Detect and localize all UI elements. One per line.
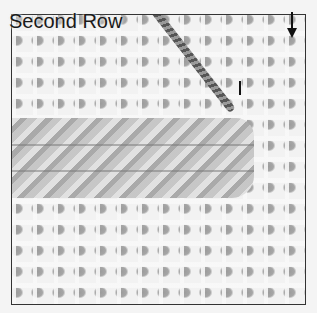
down-arrow-icon [285, 10, 299, 40]
illustration-frame [11, 14, 306, 305]
illustration-title: Second Row [9, 10, 122, 33]
stitch-row-divider [12, 170, 254, 172]
needle-position-mark [239, 81, 241, 95]
stitched-rows [12, 118, 254, 198]
stitch-row-divider [12, 144, 254, 146]
